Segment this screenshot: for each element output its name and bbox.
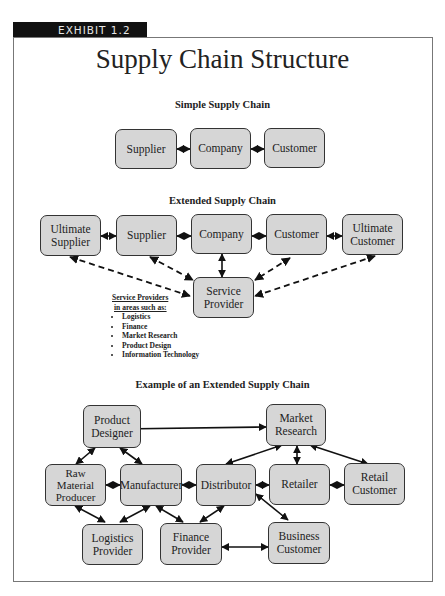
legend-item: Finance [122, 322, 199, 332]
ultimate-supplier-node: Ultimate Supplier [40, 215, 101, 256]
simple-chain-heading: Simple Supply Chain [0, 99, 445, 110]
retailer-node: Retailer [269, 464, 330, 505]
distributor-node: Distributor [196, 464, 256, 506]
example-chain-heading: Example of an Extended Supply Chain [0, 379, 445, 390]
logistics-provider-node: Logistics Provider [82, 524, 143, 565]
simple-customer-node: Customer [264, 128, 325, 168]
legend-item: Market Research [122, 331, 199, 341]
simple-company-node: Company [190, 128, 251, 169]
raw-material-producer-node: Raw Material Producer [45, 464, 106, 506]
legend-item: Information Technology [122, 350, 199, 360]
product-designer-node: Product Designer [83, 405, 141, 448]
simple-supplier-node: Supplier [115, 129, 177, 169]
retail-customer-node: Retail Customer [344, 463, 405, 505]
service-provider-node: Service Provider [193, 277, 254, 318]
supplier-node: Supplier [116, 215, 177, 256]
legend-subheading: in areas such as: [112, 303, 199, 313]
legend-heading: Service Providers [112, 293, 199, 303]
business-customer-node: Business Customer [268, 522, 330, 564]
legend-item: Logistics [122, 312, 199, 322]
customer-node: Customer [266, 214, 327, 255]
manufacturer-node: Manufacturer [120, 464, 182, 506]
market-research-node: Market Research [266, 404, 326, 446]
company-node: Company [191, 214, 252, 254]
service-providers-legend: Service Providers in areas such as: Logi… [112, 293, 199, 360]
finance-provider-node: Finance Provider [160, 523, 222, 565]
legend-item: Product Design [122, 341, 199, 351]
extended-chain-heading: Extended Supply Chain [0, 195, 445, 206]
ultimate-customer-node: Ultimate Customer [342, 214, 403, 255]
